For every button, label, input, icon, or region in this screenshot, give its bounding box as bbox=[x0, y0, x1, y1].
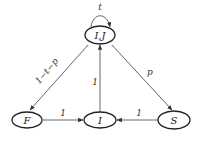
node-s: S bbox=[158, 111, 190, 129]
label-ij-to-f: 1−t−p bbox=[33, 56, 60, 86]
node-f: F bbox=[12, 112, 42, 128]
label-f-to-i: 1 bbox=[60, 108, 66, 118]
label-s-to-i: 1 bbox=[136, 108, 142, 118]
node-i: I bbox=[84, 112, 116, 128]
node-f-label: F bbox=[23, 115, 32, 126]
node-s-label: S bbox=[171, 115, 178, 126]
edge-self-loop-ij bbox=[91, 16, 110, 27]
node-ij: I,J bbox=[85, 26, 115, 44]
label-self-loop: t bbox=[98, 2, 102, 12]
edge-ij-to-s bbox=[112, 45, 172, 110]
node-ij-label: I,J bbox=[93, 30, 106, 41]
label-i-to-ij: 1 bbox=[92, 77, 98, 87]
label-ij-to-s: p bbox=[147, 67, 153, 77]
state-diagram: t 1−t−p p 1 1 1 I,J F I S bbox=[0, 0, 199, 145]
